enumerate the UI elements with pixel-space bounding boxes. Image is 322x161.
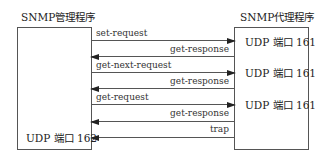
arrow-trap: [91, 137, 235, 138]
arrow-get-response-2: [91, 88, 235, 89]
arrow-get-response-3: [91, 121, 235, 122]
message-label-get-next-request: get-next-request: [96, 60, 171, 70]
arrowhead-right-icon: [227, 102, 236, 108]
arrowhead-left-icon: [90, 54, 99, 60]
arrow-get-next-request: [91, 72, 235, 73]
arrowhead-left-icon: [90, 86, 99, 92]
agent-box: UDP 端口 161 UDP 端口 161 UDP 端口 161: [234, 27, 309, 150]
arrowhead-right-icon: [227, 70, 236, 76]
message-label-trap: trap: [210, 124, 229, 134]
arrow-get-response-1: [91, 56, 235, 57]
agent-port-label-2: UDP 端口 161: [245, 65, 316, 80]
manager-title: SNMP管理程序: [21, 9, 95, 24]
agent-port-label-3: UDP 端口 161: [245, 97, 316, 112]
arrowhead-left-icon: [90, 135, 99, 141]
manager-port-label: UDP 端口 162: [26, 130, 97, 145]
message-label-get-response-3: get-response: [170, 108, 229, 118]
message-label-get-response-1: get-response: [170, 44, 229, 54]
arrow-set-request: [91, 40, 235, 41]
message-label-get-response-2: get-response: [170, 76, 229, 86]
agent-title: SNMP代理程序: [240, 9, 314, 24]
manager-box: UDP 端口 162: [17, 27, 92, 150]
arrowhead-right-icon: [227, 38, 236, 44]
arrow-get-request: [91, 104, 235, 105]
message-label-set-request: set-request: [96, 28, 147, 38]
agent-port-label-1: UDP 端口 161: [245, 34, 316, 49]
message-label-get-request: get-request: [96, 92, 149, 102]
arrowhead-left-icon: [90, 119, 99, 125]
